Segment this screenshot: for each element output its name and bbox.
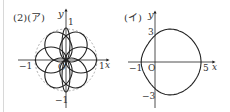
left-tick-top: 1 [68,18,74,27]
right-figure-label: (イ) [124,13,142,23]
right-tick-top: 3 [148,28,154,37]
right-y-label: y [148,10,154,20]
right-tick-left: −1 [129,64,142,73]
left-origin: O [58,63,65,72]
right-x-label: x [212,63,217,72]
right-tick-right: 5 [203,64,209,73]
left-plot [18,10,108,108]
right-tick-bottom: −3 [142,92,155,101]
left-tick-bottom: −1 [55,96,68,105]
left-tick-left: −1 [19,62,32,71]
left-x-label: x [105,61,110,70]
left-y-label: y [58,9,64,19]
left-tick-right: 1 [99,62,105,71]
right-origin: O [148,64,155,73]
left-figure-label: (2)(ア) [13,13,45,23]
right-plot [128,12,214,108]
